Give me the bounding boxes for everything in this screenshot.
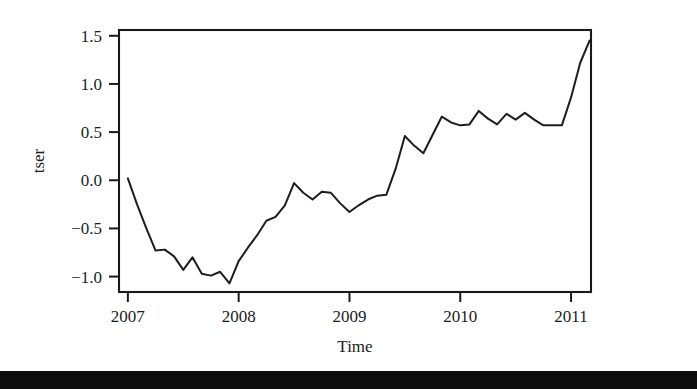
chart-canvas: −1.0−0.50.00.51.01.5 2007200820092010201…: [0, 0, 697, 366]
y-axis-title: tser: [29, 148, 48, 173]
series-group: [128, 41, 590, 284]
y-tick-label: 1.5: [81, 27, 102, 46]
time-series-chart: −1.0−0.50.00.51.01.5 2007200820092010201…: [0, 0, 697, 366]
plot-frame: [119, 30, 591, 292]
x-axis-title: Time: [337, 337, 372, 356]
plot-box-border: [119, 30, 591, 292]
y-tick-label: −0.5: [71, 219, 102, 238]
y-tick-label: 0.0: [81, 171, 102, 190]
series-line-tser: [128, 41, 590, 284]
y-axis-tick-labels: −1.0−0.50.00.51.01.5: [71, 27, 102, 287]
x-axis-ticks: [128, 292, 571, 302]
y-tick-label: 0.5: [81, 123, 102, 142]
y-axis-ticks: [109, 36, 119, 277]
y-tick-label: 1.0: [81, 75, 102, 94]
x-axis-tick-labels: 20072008200920102011: [111, 307, 588, 326]
page-edge-black-band: [0, 371, 697, 389]
y-tick-label: −1.0: [71, 268, 102, 287]
x-tick-label: 2009: [332, 307, 366, 326]
x-tick-label: 2010: [443, 307, 477, 326]
x-tick-label: 2007: [111, 307, 146, 326]
figure-page: −1.0−0.50.00.51.01.5 2007200820092010201…: [0, 0, 697, 389]
x-tick-label: 2011: [554, 307, 587, 326]
x-tick-label: 2008: [222, 307, 256, 326]
